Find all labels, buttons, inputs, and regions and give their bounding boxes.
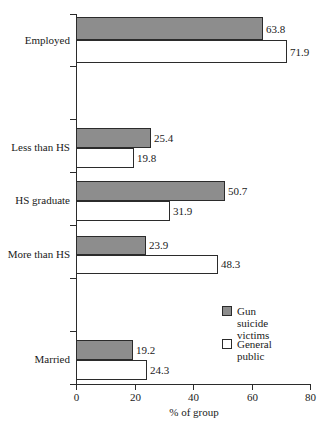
bar-less-than-hs-gun-suicide-victims [76, 128, 151, 148]
category-label-less-than-hs: Less than HS [0, 141, 70, 153]
legend-swatch-gun-icon [222, 306, 232, 316]
x-tick-mark [310, 385, 311, 390]
bar-employed-general-public [76, 40, 287, 63]
bar-more-than-hs-general-public [76, 255, 218, 274]
bar-value-hs-graduate-gun: 50.7 [228, 185, 247, 197]
category-label-more-than-hs: More than HS [0, 248, 70, 260]
bar-value-married-gun: 19.2 [136, 344, 155, 356]
legend-swatch-public-icon [222, 339, 232, 349]
x-tick-label-20: 20 [121, 391, 150, 403]
legend-label-gun-suicide-victims: Gun suicide victims [237, 305, 269, 341]
x-tick-label-80: 80 [296, 391, 325, 403]
x-tick-mark [193, 385, 194, 390]
x-axis-title: % of group [74, 406, 314, 418]
x-tick-mark [135, 385, 136, 390]
bar-chart: 0 20 40 60 80 % of group Employed 63.8 7… [0, 0, 329, 430]
x-tick-label-40: 40 [179, 391, 208, 403]
bar-value-more-than-hs-gun: 23.9 [149, 239, 168, 251]
legend-item-general-public: General public [222, 338, 272, 362]
y-tick-mark [70, 331, 76, 332]
x-tick-label-60: 60 [238, 391, 267, 403]
category-label-married: Married [0, 353, 70, 365]
category-label-hs-graduate: HS graduate [0, 194, 70, 206]
bar-value-less-than-hs-gun: 25.4 [154, 132, 173, 144]
bar-hs-graduate-general-public [76, 201, 170, 221]
bar-more-than-hs-gun-suicide-victims [76, 236, 146, 255]
plot-area: 0 20 40 60 80 % of group Employed 63.8 7… [0, 0, 329, 430]
y-tick-mark [70, 14, 76, 15]
bar-value-hs-graduate-public: 31.9 [173, 205, 192, 217]
legend-label-general-public: General public [237, 338, 272, 362]
x-tick-label-0: 0 [62, 391, 91, 403]
y-tick-mark [70, 172, 76, 173]
bar-hs-graduate-gun-suicide-victims [76, 181, 225, 201]
bar-value-more-than-hs-public: 48.3 [221, 258, 240, 270]
category-label-employed: Employed [0, 34, 70, 46]
x-tick-mark [76, 385, 77, 390]
bar-value-employed-public: 71.9 [290, 46, 309, 58]
bar-value-employed-gun: 63.8 [266, 23, 285, 35]
bar-less-than-hs-general-public [76, 148, 134, 168]
bar-married-gun-suicide-victims [76, 340, 133, 360]
bar-employed-gun-suicide-victims [76, 17, 263, 40]
y-tick-mark [70, 225, 76, 226]
y-tick-mark [70, 66, 76, 67]
bar-value-married-public: 24.3 [150, 364, 169, 376]
y-tick-mark [70, 278, 76, 279]
y-tick-mark [70, 119, 76, 120]
bar-married-general-public [76, 360, 147, 380]
x-tick-mark [252, 385, 253, 390]
bar-value-less-than-hs-public: 19.8 [137, 152, 156, 164]
legend-item-gun-suicide-victims: Gun suicide victims [222, 305, 269, 341]
